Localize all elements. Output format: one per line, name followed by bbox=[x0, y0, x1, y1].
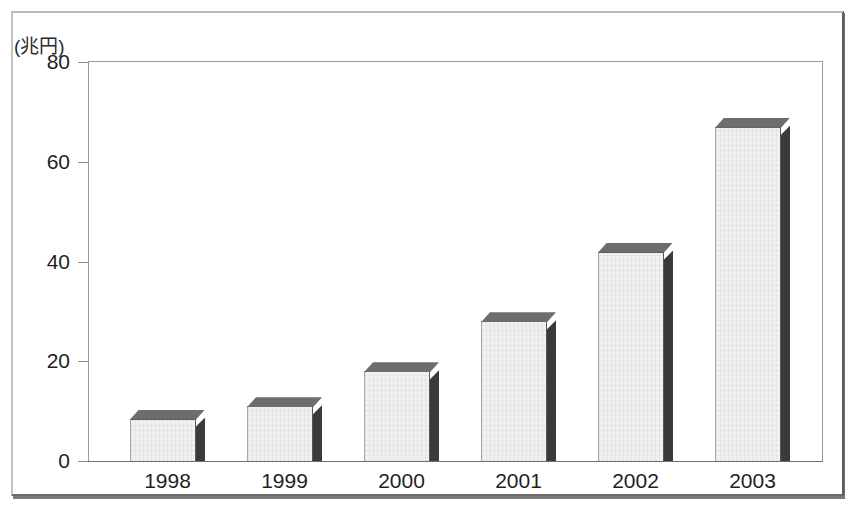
x-axis-tick-label: 2000 bbox=[343, 470, 460, 491]
chart-page: (兆円) 020406080 199819992000200120022003 bbox=[0, 0, 859, 516]
y-axis-tick-label: 20 bbox=[8, 350, 70, 371]
bar-front-face bbox=[598, 252, 664, 461]
bar-2001 bbox=[481, 312, 556, 461]
bar-top-face bbox=[130, 410, 205, 420]
bar-top-face bbox=[364, 362, 439, 372]
plot-area bbox=[88, 61, 823, 462]
bar-front-face bbox=[247, 406, 313, 461]
y-axis-tick-mark bbox=[78, 62, 89, 63]
y-axis-tick-label: 0 bbox=[8, 450, 70, 471]
y-axis-tick-mark bbox=[78, 262, 89, 263]
bar-2000 bbox=[364, 362, 439, 461]
bar-front-face bbox=[715, 127, 781, 461]
bar-side-face bbox=[664, 251, 673, 461]
bar-side-face bbox=[781, 126, 790, 461]
x-axis-tick-label: 1998 bbox=[109, 470, 226, 491]
bar-side-face bbox=[313, 405, 322, 461]
x-axis-tick-label: 2001 bbox=[460, 470, 577, 491]
y-axis-tick-mark bbox=[78, 361, 89, 362]
x-axis-tick-label: 1999 bbox=[226, 470, 343, 491]
y-axis-tick-label: 80 bbox=[8, 51, 70, 72]
bar-top-face bbox=[598, 243, 673, 253]
bar-top-face bbox=[481, 312, 556, 322]
y-axis-tick-label: 40 bbox=[8, 251, 70, 272]
bar-front-face bbox=[364, 371, 430, 461]
bar-front-face bbox=[481, 321, 547, 461]
bar-1998 bbox=[130, 410, 205, 461]
bar-side-face bbox=[196, 418, 205, 461]
y-axis-tick-mark bbox=[78, 162, 89, 163]
bar-side-face bbox=[547, 320, 556, 461]
x-axis-baseline bbox=[88, 461, 823, 462]
bar-1999 bbox=[247, 397, 322, 461]
bar-2003 bbox=[715, 118, 790, 461]
x-axis-tick-label: 2003 bbox=[694, 470, 811, 491]
bar-front-face bbox=[130, 419, 196, 461]
bar-top-face bbox=[247, 397, 322, 407]
bar-side-face bbox=[430, 370, 439, 461]
bar-top-face bbox=[715, 118, 790, 128]
y-axis-tick-label: 60 bbox=[8, 151, 70, 172]
x-axis-tick-label: 2002 bbox=[577, 470, 694, 491]
bar-2002 bbox=[598, 243, 673, 461]
